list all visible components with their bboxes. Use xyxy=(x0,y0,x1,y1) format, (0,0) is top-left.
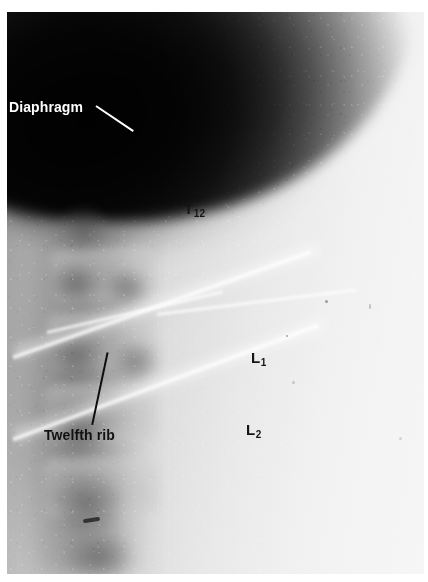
label-l2-letter: L xyxy=(246,421,255,438)
label-l1-letter: L xyxy=(251,349,260,366)
pedicle-shadow xyxy=(59,208,109,252)
film-speck xyxy=(286,335,288,337)
label-l2-number: 2 xyxy=(256,429,262,440)
radiograph-figure: Diaphragm T12 L1 L2 Twelfth rib xyxy=(0,0,428,582)
film-speck xyxy=(369,304,371,309)
pedicle-shadow xyxy=(67,532,131,574)
film-speck xyxy=(399,437,402,440)
label-l1-number: 1 xyxy=(261,357,267,368)
label-l2: L2 xyxy=(246,421,261,438)
label-twelfth-rib: Twelfth rib xyxy=(44,427,115,443)
label-l1: L1 xyxy=(251,349,266,366)
label-t12-number: 12 xyxy=(194,208,205,219)
film-speck xyxy=(292,381,295,384)
film-speck xyxy=(325,300,328,303)
xray-plate xyxy=(7,12,424,574)
label-diaphragm: Diaphragm xyxy=(9,99,83,115)
label-t12: T12 xyxy=(184,200,205,217)
pedicle-shadow xyxy=(53,264,99,304)
label-t12-letter: T xyxy=(184,200,193,217)
pedicle-shadow xyxy=(55,474,121,536)
